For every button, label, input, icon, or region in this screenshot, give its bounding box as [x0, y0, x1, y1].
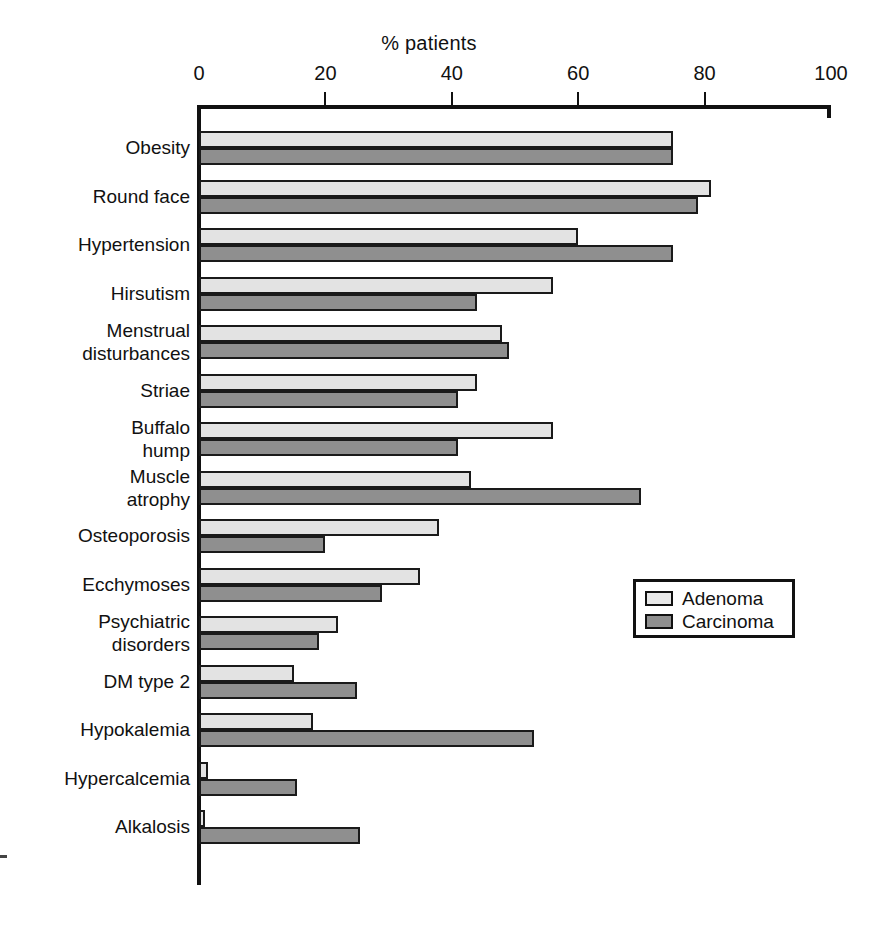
bar-carcinoma [199, 148, 673, 165]
bar-group [199, 374, 831, 408]
legend-swatch-adenoma [645, 591, 673, 606]
bar-adenoma [199, 616, 338, 633]
x-tick-mark-60 [577, 92, 579, 106]
bar-group [199, 228, 831, 262]
bar-adenoma [199, 374, 477, 391]
bar-carcinoma [199, 779, 297, 796]
bar-carcinoma [199, 730, 534, 747]
legend-label-carcinoma: Carcinoma [682, 612, 774, 631]
y-axis-label: Buffalo hump [0, 416, 190, 462]
legend-swatch-carcinoma [645, 614, 673, 629]
legend-item-adenoma: Adenoma [645, 587, 792, 610]
y-axis-label: Obesity [0, 136, 190, 159]
bar-adenoma [199, 810, 205, 827]
bar-adenoma [199, 277, 553, 294]
x-tick-label-20: 20 [314, 62, 336, 85]
bar-carcinoma [199, 585, 382, 602]
bar-adenoma [199, 665, 294, 682]
x-tick-mark-20 [324, 92, 326, 106]
bar-carcinoma [199, 342, 509, 359]
x-tick-label-40: 40 [441, 62, 463, 85]
x-tick-mark-80 [704, 92, 706, 106]
bar-carcinoma [199, 633, 319, 650]
bar-group [199, 180, 831, 214]
bar-group [199, 471, 831, 505]
bar-group [199, 422, 831, 456]
bar-group [199, 277, 831, 311]
y-axis-label: Alkalosis [0, 815, 190, 838]
x-tick-label-0: 0 [193, 62, 204, 85]
bar-adenoma [199, 131, 673, 148]
bar-adenoma [199, 228, 578, 245]
legend-label-adenoma: Adenoma [682, 589, 763, 608]
bar-adenoma [199, 519, 439, 536]
bar-carcinoma [199, 197, 698, 214]
y-axis-label: Hypercalcemia [0, 767, 190, 790]
bar-adenoma [199, 325, 502, 342]
bar-group [199, 131, 831, 165]
bar-chart: % patients 020406080100 ObesityRound fac… [0, 0, 886, 943]
bar-carcinoma [199, 827, 360, 844]
x-axis-tick-labels: 020406080100 [0, 62, 886, 88]
bar-adenoma [199, 568, 420, 585]
x-tick-label-60: 60 [567, 62, 589, 85]
bar-carcinoma [199, 391, 458, 408]
bar-adenoma [199, 422, 553, 439]
bar-carcinoma [199, 536, 325, 553]
x-tick-label-100: 100 [814, 62, 847, 85]
bar-adenoma [199, 713, 313, 730]
y-axis-label: Round face [0, 185, 190, 208]
y-axis-label: Muscle atrophy [0, 465, 190, 511]
y-axis-label: Hirsutism [0, 282, 190, 305]
legend-item-carcinoma: Carcinoma [645, 610, 792, 633]
bar-group [199, 810, 831, 844]
y-axis-label: DM type 2 [0, 670, 190, 693]
bar-carcinoma [199, 439, 458, 456]
y-axis-label: Psychiatric disorders [0, 610, 190, 656]
y-axis-label: Hypokalemia [0, 718, 190, 741]
page-edge-mark [0, 855, 7, 858]
y-axis-label: Hypertension [0, 233, 190, 256]
x-tick-mark-40 [451, 92, 453, 106]
bar-group [199, 325, 831, 359]
y-axis-label: Striae [0, 379, 190, 402]
bar-group [199, 713, 831, 747]
bar-carcinoma [199, 245, 673, 262]
y-axis-label: Ecchymoses [0, 573, 190, 596]
bar-carcinoma [199, 488, 641, 505]
chart-title: % patients [0, 32, 872, 55]
bar-adenoma [199, 471, 471, 488]
bar-carcinoma [199, 682, 357, 699]
plot-area [199, 109, 831, 889]
bar-carcinoma [199, 294, 477, 311]
chart-legend: Adenoma Carcinoma [633, 579, 795, 638]
bar-adenoma [199, 180, 711, 197]
y-axis-label: Osteoporosis [0, 524, 190, 547]
bar-group [199, 762, 831, 796]
bar-adenoma [199, 762, 208, 779]
bar-group [199, 665, 831, 699]
y-axis-label: Menstrual disturbances [0, 319, 190, 365]
x-tick-label-80: 80 [693, 62, 715, 85]
y-axis-category-labels: ObesityRound faceHypertensionHirsutismMe… [0, 109, 190, 889]
bar-group [199, 519, 831, 553]
